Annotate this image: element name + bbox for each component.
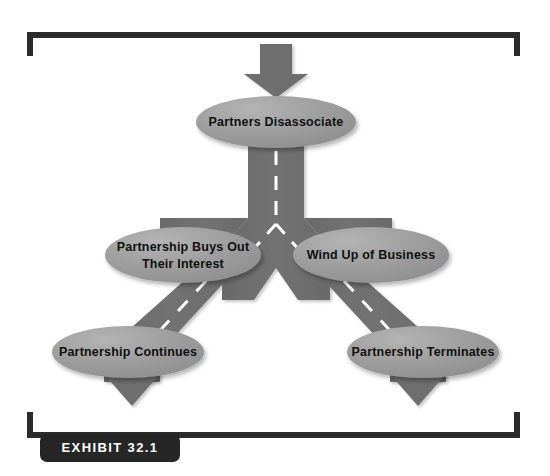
node-label-line-2: Their Interest	[142, 257, 225, 271]
exhibit-badge: EXHIBIT 32.1	[40, 434, 180, 462]
node-label: Partnership Continues	[59, 345, 197, 359]
bracket-corner-bottom-left	[27, 412, 33, 438]
node-partnership-terminates[interactable]: Partnership Terminates	[347, 326, 499, 378]
node-label: Partners Disassociate	[209, 115, 344, 129]
node-partnership-buys-out[interactable]: Partnership Buys Out Their Interest	[105, 227, 261, 283]
exhibit-flowchart: Partners Disassociate Partnership Buys O…	[0, 0, 550, 476]
node-label: Wind Up of Business	[307, 248, 436, 262]
node-wind-up-of-business[interactable]: Wind Up of Business	[293, 227, 449, 283]
bracket-corner-top-right	[514, 32, 520, 56]
node-ellipse	[105, 227, 261, 283]
bracket-top-rail	[27, 32, 520, 38]
node-label: Partnership Terminates	[351, 345, 494, 359]
node-partnership-continues[interactable]: Partnership Continues	[52, 326, 204, 378]
bracket-corner-bottom-right	[514, 412, 520, 438]
node-label-line-1: Partnership Buys Out	[117, 240, 250, 254]
exhibit-badge-label: EXHIBIT 32.1	[62, 440, 159, 455]
node-partners-disassociate[interactable]: Partners Disassociate	[196, 96, 356, 148]
bracket-corner-top-left	[27, 32, 33, 56]
